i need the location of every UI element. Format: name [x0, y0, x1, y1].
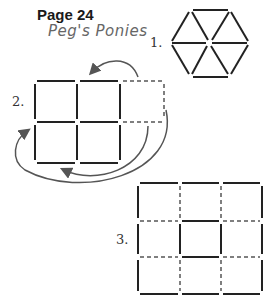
stick: [231, 12, 248, 41]
puzzle-3-grid-dashed: [140, 186, 260, 291]
puzzle-3-grid-solid: [138, 183, 262, 294]
arrow-top: [92, 61, 138, 77]
stick: [231, 45, 248, 74]
stick: [172, 45, 189, 74]
puzzle-2-dashed-column: [123, 81, 164, 122]
arrow-bottom: [15, 110, 167, 183]
stick: [192, 46, 207, 74]
puzzle-canvas: [0, 0, 270, 308]
stick: [172, 12, 189, 41]
stick: [212, 12, 229, 40]
stick: [211, 46, 228, 74]
puzzle-2-grid: [35, 81, 120, 163]
stick: [192, 12, 208, 40]
puzzle-1-hexagon: [172, 10, 248, 77]
